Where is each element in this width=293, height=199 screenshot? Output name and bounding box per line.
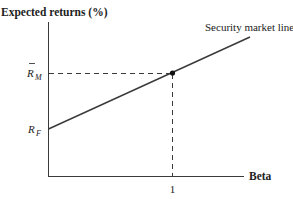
security-market-line-label: Security market line: [205, 21, 293, 33]
rm-main: R: [26, 67, 34, 79]
rf-tick-label: R F: [27, 123, 41, 138]
x-axis-title: Beta: [249, 170, 272, 182]
x-tick-1: 1: [170, 183, 176, 195]
rm-tick-label: R M: [26, 64, 43, 83]
y-axis-title: Expected returns (%): [1, 6, 108, 19]
rf-main: R: [27, 123, 35, 135]
market-portfolio-point: [170, 70, 175, 75]
sml-chart: Expected returns (%) Beta Security marke…: [0, 0, 293, 199]
rf-subscript: F: [35, 129, 41, 138]
security-market-line: [49, 37, 251, 129]
rm-subscript: M: [34, 73, 43, 82]
